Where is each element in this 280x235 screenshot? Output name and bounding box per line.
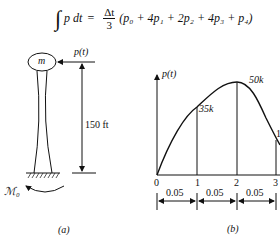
load-curve <box>157 82 280 175</box>
value-label-3: 1 <box>276 128 280 139</box>
moment-arrow <box>26 186 64 192</box>
moment-label: ℳ₀ <box>4 185 20 198</box>
point-label-2: 2 <box>234 177 239 188</box>
point-label-0: 0 <box>154 177 159 188</box>
point-label-3: 3 <box>273 177 278 188</box>
interval-label-1: 0.05 <box>166 187 184 198</box>
load-label: p(t) <box>74 46 88 57</box>
figure-drawing <box>0 0 280 235</box>
interval-label-2: 0.05 <box>206 187 224 198</box>
height-label: 150 ft <box>85 119 109 130</box>
caption-b: (b) <box>227 223 239 234</box>
value-label-1: 35k <box>199 103 213 114</box>
mass-label: m <box>38 55 45 66</box>
caption-a: (a) <box>58 224 70 235</box>
ground-hatch <box>28 173 59 178</box>
tower-shaft <box>34 71 52 173</box>
point-label-1: 1 <box>195 177 200 188</box>
interval-label-3: 0.05 <box>246 187 264 198</box>
y-axis-label: p(t) <box>162 68 176 79</box>
value-label-2: 50k <box>249 74 263 85</box>
